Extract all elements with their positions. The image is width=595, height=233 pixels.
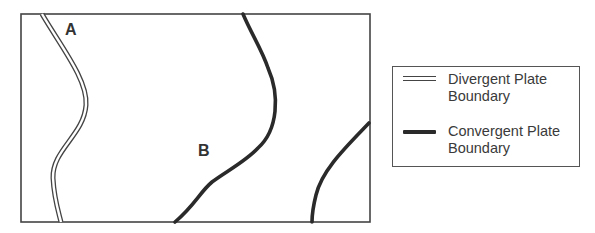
- divergent-boundary-a: [42, 14, 86, 222]
- label-a: A: [65, 22, 77, 38]
- label-b: B: [198, 143, 210, 159]
- convergent-boundary-b: [175, 14, 275, 222]
- legend-item-divergent: Divergent Plate Boundary: [448, 71, 578, 105]
- legend-label-line1: Convergent Plate: [448, 123, 578, 140]
- convergent-boundary-east: [312, 123, 369, 222]
- thick-line-icon: [403, 130, 436, 134]
- legend-item-convergent: Convergent Plate Boundary: [448, 123, 578, 157]
- legend-label-line2: Boundary: [448, 140, 578, 157]
- legend-label-line2: Boundary: [448, 88, 578, 105]
- double-line-icon: [403, 76, 436, 81]
- legend: Divergent Plate Boundary Convergent Plat…: [392, 66, 580, 167]
- legend-label-line1: Divergent Plate: [448, 71, 578, 88]
